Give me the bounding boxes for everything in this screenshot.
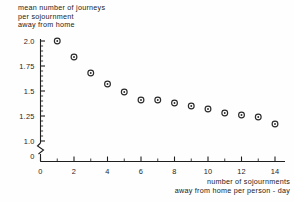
data-point-center-dot	[257, 116, 259, 118]
data-point-center-dot	[174, 102, 176, 104]
data-point-center-dot	[224, 112, 226, 114]
x-tick-label: 12	[237, 167, 246, 176]
data-point-center-dot	[241, 114, 243, 116]
y-tick-label: 1.25	[19, 112, 34, 121]
x-axis-title-line-1: number of sojournments	[132, 177, 290, 186]
data-point-center-dot	[90, 72, 92, 74]
y-axis-ticks: 1.01.251.51.752.00	[19, 37, 45, 161]
data-point-center-dot	[274, 123, 276, 125]
data-point-center-dot	[190, 105, 192, 107]
x-axis-ticks: 02468101214	[38, 157, 279, 176]
data-point-center-dot	[107, 83, 109, 85]
y-tick-label: 1.0	[24, 137, 35, 146]
y-axis-break-icon	[38, 143, 44, 154]
x-tick-label: 8	[172, 167, 176, 176]
x-tick-label: 6	[139, 167, 143, 176]
data-point-center-dot	[140, 99, 142, 101]
x-tick-label: 4	[105, 167, 109, 176]
x-tick-label: 14	[271, 167, 280, 176]
x-axis-title-line-2: away from home per person - day	[132, 186, 290, 195]
data-point-center-dot	[157, 99, 159, 101]
y-tick-label: 2.0	[24, 37, 35, 46]
x-tick-label: 0	[38, 167, 42, 176]
x-tick-label: 2	[72, 167, 76, 176]
data-point-center-dot	[207, 108, 209, 110]
x-tick-label: 10	[204, 167, 213, 176]
y-tick-label: 1.5	[24, 87, 35, 96]
y-axis-zero-label: 0	[30, 152, 34, 161]
chart-figure: mean number of journeys per sojournment …	[0, 0, 294, 202]
scatter-plot: 1.01.251.51.752.00 02468101214	[0, 0, 294, 202]
data-point-center-dot	[73, 56, 75, 58]
data-point-center-dot	[123, 91, 125, 93]
data-points	[54, 38, 278, 127]
y-tick-label: 1.75	[19, 62, 34, 71]
x-axis-title: number of sojournments away from home pe…	[132, 177, 290, 195]
data-point-center-dot	[56, 40, 58, 42]
